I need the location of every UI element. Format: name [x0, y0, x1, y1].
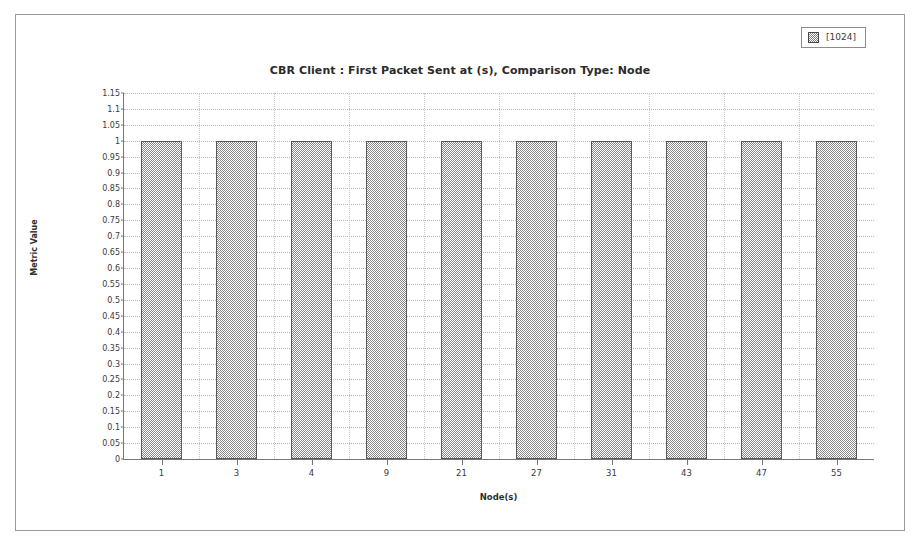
- x-tick-mark: [162, 459, 163, 465]
- x-gridline: [199, 93, 200, 459]
- y-tick-mark: [121, 363, 124, 364]
- x-gridline: [499, 93, 500, 459]
- x-tick-mark: [687, 459, 688, 465]
- chart-window: [1024] CBR Client : First Packet Sent at…: [15, 14, 905, 531]
- y-tick-label: 0: [115, 455, 120, 464]
- y-tick-mark: [121, 188, 124, 189]
- x-tick-mark: [387, 459, 388, 465]
- x-tick-mark: [537, 459, 538, 465]
- x-tick-label: 9: [384, 468, 389, 478]
- y-tick-label: 0.85: [102, 184, 120, 193]
- y-tick-mark: [121, 379, 124, 380]
- y-tick-mark: [121, 395, 124, 396]
- y-tick-label: 0.6: [107, 264, 120, 273]
- y-tick-mark: [121, 108, 124, 109]
- y-tick-mark: [121, 156, 124, 157]
- y-axis-title: Metric Value: [30, 203, 39, 293]
- y-tick-mark: [121, 459, 124, 460]
- bar[interactable]: [141, 141, 182, 459]
- y-tick-label: 0.1: [107, 423, 120, 432]
- x-tick-label: 27: [531, 468, 542, 478]
- y-tick-mark: [121, 124, 124, 125]
- y-tick-mark: [121, 93, 124, 94]
- plot-area: 00.050.10.150.20.250.30.350.40.450.50.55…: [123, 93, 874, 460]
- bar[interactable]: [366, 141, 407, 459]
- x-gridline: [649, 93, 650, 459]
- x-tick-mark: [762, 459, 763, 465]
- y-tick-label: 0.8: [107, 200, 120, 209]
- y-tick-mark: [121, 172, 124, 173]
- y-tick-label: 0.95: [102, 152, 120, 161]
- x-tick-label: 21: [456, 468, 467, 478]
- bar[interactable]: [291, 141, 332, 459]
- x-gridline: [574, 93, 575, 459]
- y-tick-mark: [121, 140, 124, 141]
- bar[interactable]: [591, 141, 632, 459]
- bar[interactable]: [441, 141, 482, 459]
- y-tick-mark: [121, 427, 124, 428]
- y-tick-label: 0.2: [107, 391, 120, 400]
- y-tick-mark: [121, 220, 124, 221]
- y-tick-label: 0.3: [107, 359, 120, 368]
- y-tick-mark: [121, 252, 124, 253]
- y-tick-mark: [121, 204, 124, 205]
- y-tick-mark: [121, 283, 124, 284]
- chart-title: CBR Client : First Packet Sent at (s), C…: [16, 64, 904, 77]
- y-tick-mark: [121, 315, 124, 316]
- y-tick-label: 0.45: [102, 311, 120, 320]
- y-tick-label: 0.9: [107, 168, 120, 177]
- x-tick-mark: [312, 459, 313, 465]
- x-tick-mark: [462, 459, 463, 465]
- x-gridline: [799, 93, 800, 459]
- x-tick-label: 55: [831, 468, 842, 478]
- y-tick-label: 1.15: [102, 89, 120, 98]
- y-tick-mark: [121, 347, 124, 348]
- x-tick-mark: [237, 459, 238, 465]
- x-gridline: [274, 93, 275, 459]
- y-tick-label: 0.05: [102, 439, 120, 448]
- y-tick-label: 1: [115, 136, 120, 145]
- y-tick-label: 0.15: [102, 407, 120, 416]
- y-tick-mark: [121, 268, 124, 269]
- bar[interactable]: [816, 141, 857, 459]
- x-tick-label: 31: [606, 468, 617, 478]
- x-tick-label: 43: [681, 468, 692, 478]
- y-tick-label: 0.65: [102, 248, 120, 257]
- bar[interactable]: [216, 141, 257, 459]
- bar[interactable]: [741, 141, 782, 459]
- x-tick-mark: [837, 459, 838, 465]
- chart-legend[interactable]: [1024]: [801, 27, 866, 48]
- bar[interactable]: [666, 141, 707, 459]
- y-tick-mark: [121, 443, 124, 444]
- y-tick-label: 1.1: [107, 104, 120, 113]
- y-tick-label: 0.7: [107, 232, 120, 241]
- x-tick-label: 4: [309, 468, 314, 478]
- y-tick-label: 0.4: [107, 327, 120, 336]
- y-tick-label: 0.35: [102, 343, 120, 352]
- x-gridline: [424, 93, 425, 459]
- y-tick-label: 0.5: [107, 295, 120, 304]
- y-tick-label: 0.25: [102, 375, 120, 384]
- x-tick-label: 47: [756, 468, 767, 478]
- x-gridline: [349, 93, 350, 459]
- y-tick-label: 1.05: [102, 120, 120, 129]
- y-tick-mark: [121, 331, 124, 332]
- x-axis-title: Node(s): [123, 492, 874, 502]
- y-tick-label: 0.55: [102, 279, 120, 288]
- legend-entry-label: [1024]: [826, 33, 856, 42]
- y-tick-mark: [121, 236, 124, 237]
- y-tick-mark: [121, 411, 124, 412]
- bar[interactable]: [516, 141, 557, 459]
- legend-swatch-icon: [808, 32, 819, 43]
- x-tick-mark: [612, 459, 613, 465]
- x-tick-label: 1: [159, 468, 164, 478]
- x-tick-label: 3: [234, 468, 239, 478]
- y-tick-mark: [121, 299, 124, 300]
- x-gridline: [724, 93, 725, 459]
- y-tick-label: 0.75: [102, 216, 120, 225]
